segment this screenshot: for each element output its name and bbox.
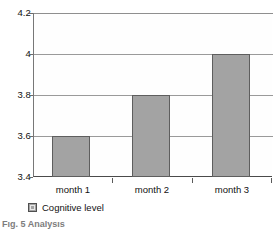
y-tick-label-3-4: 3.4: [0, 172, 31, 182]
y-tick-mark-3-4: [29, 177, 33, 178]
x-tick-label-month-1: month 1: [33, 184, 113, 195]
y-tick-label-3-6: 3.6: [0, 131, 31, 141]
gridline-4-2: [34, 13, 273, 14]
bar-month-1: [52, 136, 90, 177]
figure-caption: Fig. 5 Analysis: [2, 221, 276, 230]
legend-swatch-icon: [28, 203, 37, 212]
x-tick-mark-2: [192, 178, 193, 183]
x-tick-label-month-3: month 3: [192, 184, 272, 195]
y-tick-label-4-2: 4.2: [0, 8, 31, 18]
legend-label-cognitive-level: Cognitive level: [42, 202, 104, 213]
x-tick-mark-1: [112, 178, 113, 183]
y-tick-label-4: 4: [0, 49, 31, 59]
bar-month-2: [132, 95, 170, 177]
y-tick-label-3-8: 3.8: [0, 90, 31, 100]
x-tick-label-month-2: month 2: [112, 184, 192, 195]
plot-area: [33, 13, 272, 177]
x-tick-mark-3: [271, 178, 272, 183]
figure-caption-text: Fig. 5 Analysis: [2, 221, 276, 230]
bar-chart-figure: 4.2 4 3.8 3.6 3.4 month 1 month 2 month …: [0, 0, 278, 230]
bar-month-3: [212, 54, 250, 177]
chart-legend: Cognitive level: [28, 202, 104, 213]
